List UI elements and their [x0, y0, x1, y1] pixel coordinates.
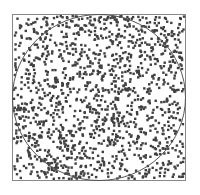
- data-point: [75, 131, 77, 133]
- data-point: [75, 51, 77, 53]
- data-point: [105, 37, 107, 39]
- data-point: [176, 46, 178, 48]
- data-point: [84, 31, 86, 33]
- data-point: [124, 51, 126, 53]
- data-point: [92, 62, 94, 64]
- data-point: [121, 163, 123, 165]
- data-point: [167, 129, 169, 131]
- data-point: [140, 29, 142, 31]
- data-point: [37, 32, 39, 34]
- data-point: [16, 158, 18, 160]
- data-point: [98, 134, 100, 136]
- data-point: [168, 108, 170, 110]
- data-point: [14, 64, 16, 66]
- data-point: [63, 142, 65, 144]
- data-point: [46, 132, 48, 134]
- data-point: [163, 124, 165, 126]
- data-point: [89, 60, 91, 62]
- data-point: [107, 168, 109, 170]
- data-point: [51, 104, 53, 106]
- data-point: [152, 109, 154, 111]
- data-point: [20, 177, 22, 179]
- data-point: [39, 149, 41, 151]
- data-point: [66, 157, 68, 159]
- data-point: [53, 158, 55, 160]
- data-point: [61, 57, 63, 59]
- data-point: [126, 131, 128, 133]
- data-point: [115, 38, 117, 40]
- data-point: [144, 58, 146, 60]
- data-point: [33, 75, 35, 77]
- data-point: [181, 68, 183, 70]
- data-point: [145, 17, 147, 19]
- data-point: [71, 147, 73, 149]
- data-point: [56, 113, 58, 115]
- data-point: [158, 16, 160, 18]
- data-point: [81, 48, 83, 50]
- data-point: [152, 124, 154, 126]
- data-point: [92, 151, 94, 153]
- data-point: [49, 137, 51, 139]
- data-point: [57, 167, 59, 169]
- data-point: [115, 35, 117, 37]
- data-point: [98, 125, 100, 127]
- data-point: [18, 45, 20, 47]
- data-point: [31, 107, 33, 109]
- data-point: [140, 144, 142, 146]
- data-point: [162, 114, 164, 116]
- data-point: [88, 176, 90, 178]
- data-point: [107, 89, 109, 91]
- data-point: [108, 127, 110, 129]
- data-point: [47, 111, 49, 113]
- data-point: [136, 39, 138, 41]
- data-point: [153, 74, 155, 76]
- data-point: [56, 16, 58, 18]
- data-point: [169, 61, 171, 63]
- data-point: [96, 128, 98, 130]
- data-point: [151, 81, 153, 83]
- data-point: [179, 150, 181, 152]
- data-point: [15, 31, 17, 33]
- data-point: [114, 138, 116, 140]
- data-point: [95, 125, 97, 127]
- data-point: [80, 51, 82, 53]
- data-point: [137, 95, 139, 97]
- data-point: [68, 130, 70, 132]
- data-point: [32, 82, 34, 84]
- data-point: [132, 47, 134, 49]
- data-point: [122, 137, 124, 139]
- data-point: [131, 102, 133, 104]
- data-point: [135, 70, 137, 72]
- data-point: [47, 94, 49, 96]
- data-point: [133, 87, 135, 89]
- data-point: [104, 55, 106, 57]
- data-point: [103, 18, 105, 20]
- data-point: [78, 152, 80, 154]
- data-point: [79, 176, 81, 178]
- data-point: [52, 123, 54, 125]
- data-point: [62, 92, 64, 94]
- data-point: [101, 95, 103, 97]
- data-point: [30, 23, 32, 25]
- data-point: [175, 117, 177, 119]
- data-point: [94, 19, 96, 21]
- data-point: [41, 55, 43, 57]
- data-point: [89, 16, 91, 18]
- data-point: [98, 53, 100, 55]
- data-point: [150, 64, 152, 66]
- data-point: [164, 168, 166, 170]
- data-point: [51, 69, 53, 71]
- data-point: [129, 81, 131, 83]
- data-point: [173, 173, 175, 175]
- data-point: [130, 136, 132, 138]
- data-point: [115, 136, 117, 138]
- data-point: [148, 26, 150, 28]
- data-point: [40, 38, 42, 40]
- data-point: [169, 162, 171, 164]
- data-point: [74, 38, 76, 40]
- data-point: [93, 137, 95, 139]
- data-point: [67, 83, 69, 85]
- data-point: [162, 72, 164, 74]
- data-point: [119, 60, 121, 62]
- data-point: [113, 141, 115, 143]
